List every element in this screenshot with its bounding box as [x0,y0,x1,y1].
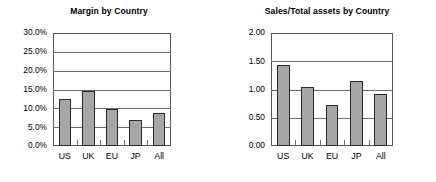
chart-panel-sales-total-assets: Sales/Total assets by Country 0.000.501.… [218,0,436,182]
y-axis-tick-label: 0.0% [1,141,47,149]
bar [129,120,141,146]
x-axis-category-label: US [53,152,77,161]
x-axis-tick [147,140,148,146]
x-axis-category-label: JP [344,152,368,161]
bar [301,87,314,146]
figure-container: Margin by Country 0.0%5.0%10.0%15.0%20.0… [0,0,436,182]
x-axis-category-label: JP [124,152,148,161]
gridline [271,61,393,62]
x-axis-tick [100,140,101,146]
bar [59,99,71,146]
x-axis-category-label: All [147,152,171,161]
y-axis-tick-label: 0.50 [219,113,265,121]
plot-wrapper-sales: 0.000.501.001.502.00 USUKEUJPAll [271,33,393,146]
chart-panel-margin: Margin by Country 0.0%5.0%10.0%15.0%20.0… [0,0,218,182]
y-axis-tick-label: 15.0% [1,85,47,93]
y-axis-tick-label: 20.0% [1,66,47,74]
y-axis-tick-label: 10.0% [1,104,47,112]
bar [153,113,165,146]
x-axis-tick [124,140,125,146]
gridline [53,71,171,72]
bar [374,94,387,146]
x-axis-category-label: UK [295,152,319,161]
bar [277,65,290,146]
x-axis-category-label: EU [100,152,124,161]
y-axis-tick-label: 0.00 [219,141,265,149]
bar [350,81,363,146]
plot-wrapper-margin: 0.0%5.0%10.0%15.0%20.0%25.0%30.0% USUKEU… [53,33,171,146]
x-axis-category-label: EU [320,152,344,161]
x-axis-tick [344,140,345,146]
x-axis-tick [320,140,321,146]
bar [82,91,94,146]
x-axis-tick [77,140,78,146]
y-axis-tick-label: 1.50 [219,57,265,65]
x-axis-category-label: US [271,152,295,161]
y-axis-tick-label: 5.0% [1,123,47,131]
y-axis-tick-label: 25.0% [1,47,47,55]
bar [326,105,339,146]
x-axis-tick [369,140,370,146]
x-axis-category-label: UK [77,152,101,161]
gridline [53,52,171,53]
gridline [53,90,171,91]
x-axis-tick [295,140,296,146]
y-axis-tick-label: 30.0% [1,28,47,36]
x-axis-category-label: All [369,152,393,161]
y-axis-tick-label: 1.00 [219,85,265,93]
chart-title: Sales/Total assets by Country [218,6,436,16]
chart-title: Margin by Country [0,6,218,16]
y-axis-tick-label: 2.00 [219,28,265,36]
bar [106,109,118,146]
